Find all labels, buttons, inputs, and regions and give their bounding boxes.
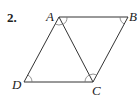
angle-mark-c-right [89, 74, 97, 75]
segment-bc [93, 17, 128, 82]
angle-mark-c-left [85, 75, 89, 82]
angle-mark-d [28, 75, 32, 82]
diagonal-ac [59, 17, 93, 82]
angle-mark-b [120, 17, 124, 24]
vertex-label-d: D [12, 78, 21, 91]
angle-mark-a-right [63, 17, 67, 25]
vertex-label-a: A [46, 10, 54, 23]
vertex-label-c: C [92, 84, 101, 97]
vertex-label-b: B [129, 10, 137, 23]
angle-mark-a-left [55, 24, 63, 25]
segment-da [24, 17, 59, 82]
